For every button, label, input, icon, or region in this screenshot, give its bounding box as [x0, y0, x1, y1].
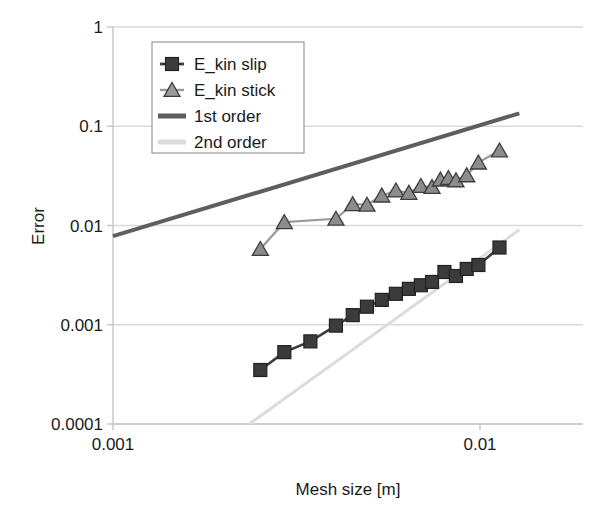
series-markers: [252, 143, 507, 377]
data-point-marker: [389, 287, 402, 300]
y-tick-label: 0.0001: [51, 415, 103, 434]
data-point-marker: [254, 364, 267, 377]
y-tick-label: 0.001: [60, 316, 103, 335]
data-point-marker: [460, 262, 473, 275]
data-point-marker: [491, 143, 507, 157]
data-point-marker: [472, 258, 485, 271]
data-point-marker: [304, 335, 317, 348]
legend-item-label: 1st order: [194, 107, 261, 126]
legend-item-label: 2nd order: [194, 133, 267, 152]
x-tick-label: 0.001: [92, 435, 135, 454]
chart-container: 0.00010.0010.010.11 0.0010.01 Error Mesh…: [0, 0, 612, 514]
data-point-marker: [374, 188, 390, 202]
legend-item-label: E_kin stick: [194, 81, 276, 100]
y-tick-label: 1: [94, 18, 103, 37]
data-point-marker: [493, 241, 506, 254]
data-point-marker: [278, 346, 291, 359]
y-tick-label: 0.1: [79, 117, 103, 136]
legend: E_kin slipE_kin stick1st order2nd order: [152, 42, 304, 153]
data-point-marker: [402, 282, 415, 295]
x-tick-label: 0.01: [463, 435, 496, 454]
reference-lines: [113, 113, 519, 424]
y-tick-labels: 0.00010.0010.010.11: [51, 18, 103, 434]
legend-item-label: E_kin slip: [194, 55, 267, 74]
series-lines: [260, 150, 499, 370]
error-convergence-chart: 0.00010.0010.010.11 0.0010.01 Error Mesh…: [0, 0, 612, 514]
data-point-marker: [360, 300, 373, 313]
x-axis-title: Mesh size [m]: [296, 480, 401, 499]
data-point-marker: [470, 155, 486, 169]
y-axis-title: Error: [29, 207, 48, 245]
y-tick-label: 0.01: [70, 217, 103, 236]
data-point-marker: [346, 309, 359, 322]
data-point-marker: [426, 275, 439, 288]
x-tick-labels: 0.0010.01: [92, 435, 497, 454]
data-point-marker: [375, 293, 388, 306]
data-point-marker: [388, 183, 404, 197]
legend-square-icon: [166, 58, 179, 71]
data-point-marker: [329, 319, 342, 332]
